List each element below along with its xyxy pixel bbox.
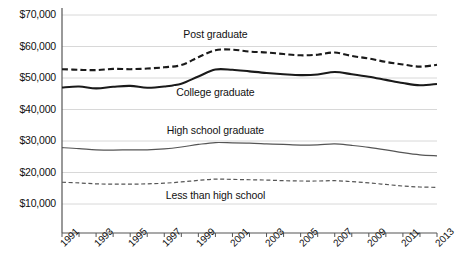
y-axis-tick-label: $30,000 [19,134,56,146]
series-label-high-school-graduate: High school graduate [165,124,266,136]
y-axis-tick-label: $60,000 [19,40,56,52]
series-label-less-than-high-school: Less than high school [164,189,267,201]
series-label-college-graduate: College graduate [174,86,256,98]
y-axis-tick-label: $50,000 [19,71,56,83]
series-line-less-than-high-school [62,179,437,187]
y-axis-tick-label: $20,000 [19,166,56,178]
series-line-post-graduate [62,49,437,70]
series-label-post-graduate: Post graduate [181,28,249,40]
y-axis-tick-label: $10,000 [19,197,56,209]
y-axis-tick-label: $40,000 [19,103,56,115]
series-line-high-school-graduate [62,142,437,155]
y-axis-tick-label: $70,000 [19,8,56,20]
